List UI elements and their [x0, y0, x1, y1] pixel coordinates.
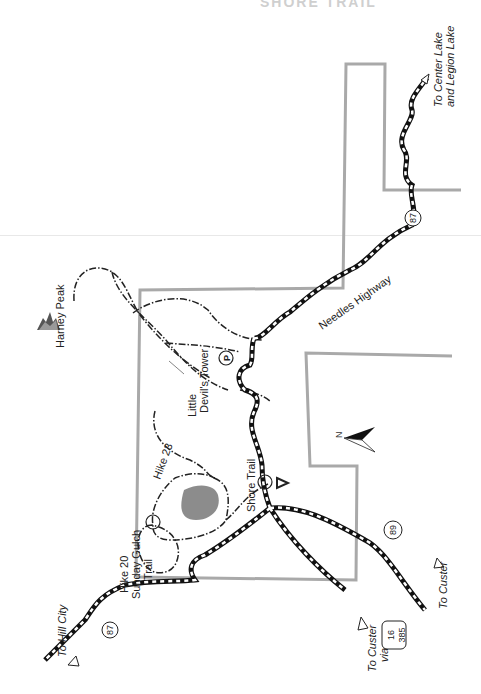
svg-text:N: N: [334, 432, 344, 439]
to-center-lake-label-2: and Legion Lake: [444, 26, 456, 107]
route-87-shield-south: 87: [102, 622, 118, 638]
to-custer-label: To Custer: [437, 560, 449, 609]
hike-23-label: Hike 23: [151, 442, 175, 481]
hike-20-label-3: Trail: [142, 559, 154, 580]
route-89-shield: 89: [384, 521, 402, 539]
to-center-lake-label-1: To Center Lake: [432, 32, 444, 107]
north-arrow-icon: N: [334, 427, 375, 452]
route-87-shield-north: 87: [405, 210, 421, 226]
arrow-hill-city-icon: [68, 656, 79, 666]
svg-text:87: 87: [105, 625, 115, 635]
to-custer-via-label-1: To Custer: [366, 623, 378, 672]
leader-line: [169, 361, 184, 374]
little-devils-tower-label-2: Devil's Tower: [198, 348, 210, 413]
svg-text:P: P: [222, 355, 232, 361]
to-hill-city-label: To Hill City: [56, 603, 68, 657]
svg-text:385: 385: [397, 627, 407, 642]
us-route-shield: 16 385: [382, 621, 407, 649]
harney-peak-label: Harney Peak: [54, 284, 66, 348]
to-custer-via-label-2: via: [378, 648, 390, 662]
lake: [181, 485, 218, 520]
highways: [45, 78, 427, 660]
shore-trail-label: Shore Trail: [245, 459, 257, 512]
hike-20-label-2: Sunday Gulch: [130, 530, 142, 599]
trails: [74, 268, 270, 573]
campground-icon: [277, 478, 288, 488]
parking-icon: P: [219, 351, 233, 365]
svg-text:87: 87: [408, 213, 418, 223]
svg-text:16: 16: [386, 630, 396, 640]
little-devils-tower-label-1: Little: [186, 394, 198, 417]
hike-20-label-1: Hike 20: [118, 556, 130, 593]
trail-map: Harney Peak Little Devil's Tower P Needl…: [0, 0, 481, 694]
svg-text:89: 89: [388, 525, 398, 535]
